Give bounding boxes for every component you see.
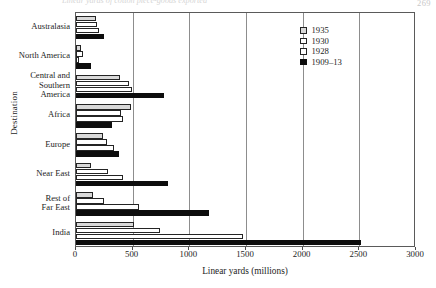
legend-label: 1928: [312, 46, 329, 56]
bar: [76, 151, 119, 157]
bar: [76, 133, 103, 139]
legend-swatch-icon: [300, 59, 307, 66]
y-axis-category-label: Europe: [45, 140, 70, 149]
bar: [76, 34, 104, 40]
x-tick-label: 1500: [236, 249, 254, 259]
bar: [76, 93, 164, 99]
bar: [76, 63, 91, 69]
bar-group: [76, 72, 414, 101]
bar: [76, 163, 91, 169]
bar: [76, 139, 107, 145]
bar: [76, 169, 108, 175]
bar-group: [76, 189, 414, 218]
bar: [76, 210, 209, 216]
bar: [76, 57, 79, 63]
x-axis-title: Linear yards (millions): [75, 266, 415, 276]
bar: [76, 204, 139, 210]
bar: [76, 87, 132, 93]
bar: [76, 104, 131, 110]
legend-label: 1930: [312, 36, 329, 46]
legend-label: 1909–13: [312, 57, 342, 67]
y-axis-labels: AustralasiaNorth AmericaCentral and Sout…: [0, 12, 73, 247]
bar: [76, 45, 81, 51]
bar-group: [76, 101, 414, 130]
bar: [76, 234, 243, 240]
y-axis-category-label: Australasia: [31, 22, 70, 31]
legend-entry: 1930: [300, 36, 342, 47]
bar: [76, 51, 83, 57]
bar: [76, 28, 99, 34]
bar: [76, 240, 361, 246]
bar: [76, 198, 104, 204]
bar: [76, 145, 114, 151]
legend-entry: 1935: [300, 25, 342, 36]
x-tick-label: 0: [73, 249, 77, 259]
bar-group: [76, 160, 414, 189]
bar-chart: Destination AustralasiaNorth AmericaCent…: [0, 0, 436, 288]
x-tick-label: 500: [125, 249, 138, 259]
legend-swatch-icon: [300, 48, 307, 55]
chart-legend: 1935193019281909–13: [300, 25, 342, 67]
bar: [76, 228, 160, 234]
x-tick-label: 2500: [350, 249, 368, 259]
bar: [76, 75, 120, 81]
bar: [76, 116, 123, 122]
y-axis-category-label: Rest of Far East: [42, 194, 70, 213]
bar: [76, 222, 134, 228]
y-axis-category-label: Africa: [48, 110, 70, 119]
legend-entry: 1928: [300, 46, 342, 57]
legend-swatch-icon: [300, 38, 307, 45]
bar-group: [76, 13, 414, 42]
x-tick-label: 2000: [293, 249, 311, 259]
x-tick-label: 1000: [180, 249, 198, 259]
bar: [76, 22, 97, 28]
bar-group: [76, 131, 414, 160]
legend-swatch-icon: [300, 27, 307, 34]
bar: [76, 16, 96, 22]
bar: [76, 192, 93, 198]
bar: [76, 110, 121, 116]
bar: [76, 175, 123, 181]
legend-entry: 1909–13: [300, 57, 342, 68]
y-axis-category-label: India: [52, 228, 70, 237]
legend-label: 1935: [312, 25, 329, 35]
y-axis-category-label: Near East: [36, 169, 70, 178]
plot-area: [75, 12, 415, 247]
bar: [76, 122, 112, 128]
x-tick-label: 3000: [406, 249, 424, 259]
bar: [76, 181, 168, 187]
bar: [76, 81, 129, 87]
bar-group: [76, 42, 414, 71]
y-axis-category-label: North America: [19, 51, 70, 60]
bar-group: [76, 219, 414, 248]
y-axis-category-label: Central and Southern America: [30, 71, 70, 99]
